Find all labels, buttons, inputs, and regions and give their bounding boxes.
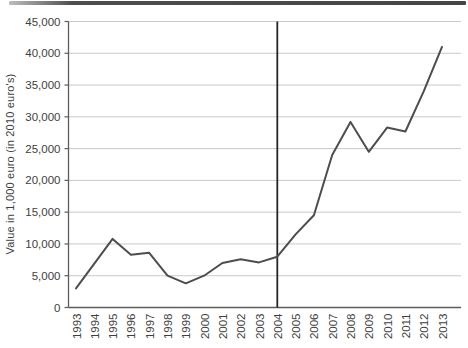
y-tick-label: 15,000 [25,206,60,218]
y-tick-label: 30,000 [25,111,60,123]
y-tick-label: 20,000 [25,174,60,186]
x-tick-label: 2000 [199,314,211,340]
x-tick-label: 2009 [363,314,375,340]
y-tick-label: 0 [54,302,60,314]
data-series-line [76,47,442,289]
x-tick-label: 2004 [272,313,284,339]
x-tick-label: 2001 [217,314,229,340]
x-tick-label: 2005 [290,314,302,340]
x-tick-label: 2008 [345,314,357,340]
x-tick-label: 2006 [308,314,320,340]
line-chart: 05,00010,00015,00020,00025,00030,00035,0… [0,0,468,348]
x-tick-label: 2010 [382,314,394,340]
x-tick-label: 1993 [71,314,83,340]
figure: Value in 1,000 euro (in 2010 euro's) 05,… [0,0,468,348]
y-tick-label: 10,000 [25,238,60,250]
y-tick-label: 35,000 [25,79,60,91]
x-tick-label: 2011 [400,314,412,339]
y-tick-label: 5,000 [32,270,61,282]
y-tick-label: 40,000 [25,47,60,59]
y-tick-label: 45,000 [25,16,60,28]
x-tick-label: 2003 [254,314,266,340]
x-tick-label: 2002 [235,314,247,340]
x-tick-label: 2013 [437,314,449,340]
x-tick-label: 1999 [180,314,192,340]
x-tick-label: 1997 [144,314,156,340]
y-tick-label: 25,000 [25,143,60,155]
x-tick-label: 1996 [125,314,137,340]
x-tick-label: 2007 [327,314,339,340]
x-tick-label: 1994 [89,313,101,339]
x-tick-label: 2012 [418,314,430,340]
x-tick-label: 1998 [162,314,174,340]
x-tick-label: 1995 [107,314,119,340]
